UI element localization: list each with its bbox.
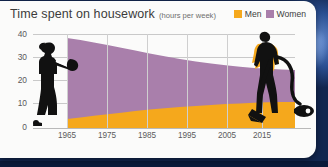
gridline-2005 [227,34,228,128]
legend-item-men: Men [234,9,262,19]
chart-legend: Men Women [234,9,310,19]
y-tick-20: 20 [1,75,27,85]
chart-subtitle: (hours per week) [159,11,216,20]
legend-swatch-women [266,10,274,18]
y-tick-40: 40 [1,29,27,39]
y-tick-30: 30 [1,52,27,62]
x-tick-2015: 2015 [253,131,271,140]
x-tick-1995: 1995 [178,131,196,140]
chart-header: Time spent on housework (hours per week)… [10,7,310,25]
chart-title: Time spent on housework [10,7,155,21]
gridline-1995 [187,34,188,128]
x-tick-1965: 1965 [58,131,76,140]
x-tick-2005: 2005 [218,131,236,140]
x-tick-1975: 1975 [98,131,116,140]
y-tick-10: 10 [1,98,27,108]
woman-with-duster-silhouette [30,41,74,129]
x-tick-1985: 1985 [138,131,156,140]
x-axis: 1965 1975 1985 1995 2005 2015 [0,131,316,145]
legend-swatch-men [234,10,242,18]
legend-label-men: Men [245,9,262,19]
gridline-1975 [107,34,108,128]
man-with-vacuum-silhouette [248,31,314,131]
legend-label-women: Women [277,9,306,19]
legend-item-women: Women [266,9,306,19]
gridline-1985 [147,34,148,128]
y-axis: 40 30 20 10 0 [0,25,30,129]
chart-card: Time spent on housework (hours per week)… [0,1,316,158]
